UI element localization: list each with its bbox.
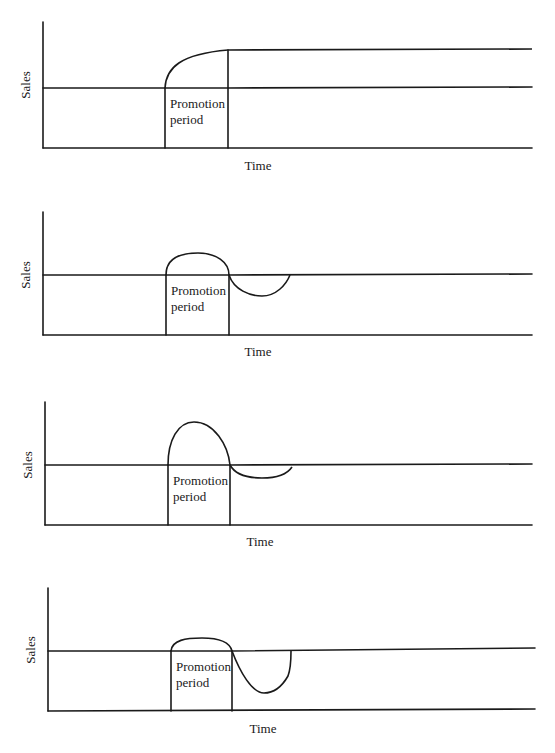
chart-panel-2: PromotionperiodTimeSales [18, 212, 532, 359]
x-axis [48, 709, 535, 711]
y-axis-label: Sales [18, 261, 33, 288]
promotion-label-line2: period [171, 299, 205, 314]
promotion-label-line1: Promotion [176, 659, 231, 674]
promotion-label-line2: period [173, 489, 207, 504]
promotion-label-line2: period [170, 112, 204, 127]
promotion-label-line2: period [176, 675, 210, 690]
chart-panel-1: PromotionperiodTimeSales [18, 22, 532, 173]
sales-curve [165, 49, 532, 88]
baseline-post [232, 648, 535, 651]
y-axis-label: Sales [20, 451, 35, 478]
baseline-post [229, 274, 532, 275]
promotion-label-line1: Promotion [171, 283, 226, 298]
y-axis-label: Sales [18, 71, 33, 98]
chart-panel-4: PromotionperiodTimeSales [23, 588, 535, 736]
baseline-post [228, 87, 532, 88]
baseline-post [230, 464, 532, 465]
chart-panel-3: PromotionperiodTimeSales [20, 402, 532, 549]
x-axis-label: Time [247, 534, 274, 549]
promotion-label-line1: Promotion [170, 96, 225, 111]
y-axis-label: Sales [23, 636, 38, 663]
promotion-label-line1: Promotion [173, 473, 228, 488]
x-axis-label: Time [245, 158, 272, 173]
figure: PromotionperiodTimeSalesPromotionperiodT… [0, 0, 555, 753]
x-axis-label: Time [250, 721, 277, 736]
x-axis-label: Time [245, 344, 272, 359]
chart-canvas: PromotionperiodTimeSalesPromotionperiodT… [0, 0, 555, 753]
